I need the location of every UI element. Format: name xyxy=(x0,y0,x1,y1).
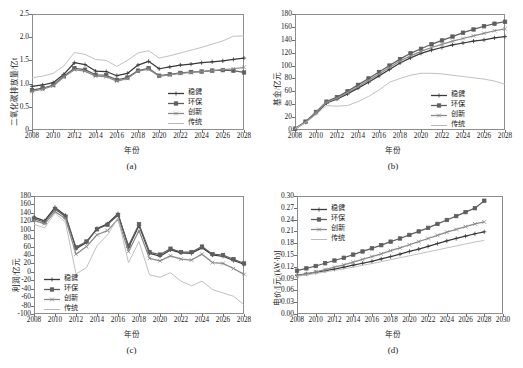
x-tick-mark xyxy=(223,314,224,317)
legend-label: 传统 xyxy=(331,235,345,242)
x-tick-label: 2026 xyxy=(458,317,472,324)
legend-marker-icon xyxy=(168,119,184,128)
y-tick-label: 180 xyxy=(281,10,292,17)
x-tick-label: 2016 xyxy=(111,317,125,324)
legend-label: 环保 xyxy=(64,285,78,292)
y-axis-label-a: 二氧化碳排放量/亿t xyxy=(11,58,19,126)
x-tick-label: 2028 xyxy=(477,317,491,324)
x-tick-mark xyxy=(421,130,422,133)
y-tick-label: 0.24 xyxy=(281,216,294,223)
series-group-b xyxy=(295,14,505,130)
legend-label: 传统 xyxy=(188,119,202,126)
x-tick-mark xyxy=(202,314,203,317)
plot-area-a: 00.51.01.52.02.5 20082010201220142016201… xyxy=(32,14,244,130)
y-tick-label: 160 xyxy=(20,201,31,208)
legend-item-传统: 传统 xyxy=(44,304,78,314)
legend-item-创新: 创新 xyxy=(431,110,465,120)
x-tick-mark xyxy=(53,130,54,133)
legend-item-环保: 环保 xyxy=(44,284,78,294)
legend-label: 稳健 xyxy=(451,91,465,98)
x-tick-label: 2024 xyxy=(194,133,208,140)
x-tick-label: 2012 xyxy=(327,317,341,324)
legend-marker-icon xyxy=(311,215,327,224)
x-tick-mark xyxy=(391,314,392,317)
x-tick-label: 2030 xyxy=(496,317,510,324)
legend-label: 创新 xyxy=(188,109,202,116)
y-tick-label: 40 xyxy=(24,251,31,258)
legend-marker-icon xyxy=(431,111,447,120)
x-tick-label: 2028 xyxy=(237,133,251,140)
x-tick-label: 2008 xyxy=(288,133,302,140)
x-tick-label: 2016 xyxy=(372,133,386,140)
legend-marker-icon xyxy=(168,99,184,108)
x-tick-mark xyxy=(484,130,485,133)
x-axis-label-d: 年份 xyxy=(263,331,523,339)
x-tick-mark xyxy=(139,314,140,317)
x-tick-label: 2024 xyxy=(440,317,454,324)
x-tick-mark xyxy=(358,130,359,133)
x-tick-mark xyxy=(55,314,56,317)
y-tick-label: 1.5 xyxy=(20,57,29,64)
x-tick-mark xyxy=(447,314,448,317)
y-tick-label: 120 xyxy=(20,218,31,225)
x-tick-label: 2020 xyxy=(414,133,428,140)
y-axis-label-c: 利润/亿元 xyxy=(13,258,21,292)
y-tick-label: 80 xyxy=(24,234,31,241)
legend-item-环保: 环保 xyxy=(311,214,345,224)
legend-item-稳健: 稳健 xyxy=(431,90,465,100)
legend-label: 传统 xyxy=(451,121,465,128)
x-tick-label: 2020 xyxy=(402,317,416,324)
x-tick-label: 2018 xyxy=(131,133,145,140)
x-tick-mark xyxy=(159,130,160,133)
y-tick-label: 180 xyxy=(20,192,31,199)
legend-label: 传统 xyxy=(64,305,78,312)
x-axis-label-a: 年份 xyxy=(0,147,263,155)
x-tick-label: 2010 xyxy=(309,133,323,140)
x-tick-mark xyxy=(334,314,335,317)
caption-a: (a) xyxy=(0,162,263,171)
x-tick-mark xyxy=(74,130,75,133)
x-tick-label: 2022 xyxy=(435,133,449,140)
x-tick-label: 2026 xyxy=(216,133,230,140)
x-axis-label-c: 年份 xyxy=(0,331,263,339)
series-环保 xyxy=(32,207,245,265)
x-tick-label: 2028 xyxy=(237,317,251,324)
x-tick-label: 2016 xyxy=(365,317,379,324)
y-tick-label: 0.30 xyxy=(281,192,294,199)
legend-marker-icon xyxy=(44,305,60,314)
y-tick-label: 20 xyxy=(285,113,292,120)
y-tick-label: 20 xyxy=(24,260,31,267)
caption-c: (c) xyxy=(0,346,263,355)
legend-label: 创新 xyxy=(451,111,465,118)
x-tick-mark xyxy=(316,130,317,133)
x-tick-label: 2008 xyxy=(290,317,304,324)
x-tick-mark xyxy=(244,130,245,133)
x-tick-label: 2018 xyxy=(383,317,397,324)
x-tick-mark xyxy=(117,130,118,133)
x-tick-mark xyxy=(223,130,224,133)
x-tick-mark xyxy=(428,314,429,317)
x-tick-label: 2022 xyxy=(421,317,435,324)
x-tick-label: 2022 xyxy=(174,317,188,324)
legend-item-传统: 传统 xyxy=(168,118,202,128)
y-tick-label: 100 xyxy=(20,226,31,233)
four-panel-line-chart-figure: 00.51.01.52.02.5 20082010201220142016201… xyxy=(0,0,523,368)
y-tick-label: 0.21 xyxy=(281,228,294,235)
x-tick-mark xyxy=(160,314,161,317)
y-tick-label: 0.06 xyxy=(281,287,294,294)
legend-marker-icon xyxy=(44,285,60,294)
x-tick-mark xyxy=(400,130,401,133)
legend-marker-icon xyxy=(311,235,327,244)
chart-panel-b: 020406080100120140160180 200820102012201… xyxy=(263,0,523,184)
series-稳健 xyxy=(32,205,246,266)
series-稳健 xyxy=(293,34,507,130)
x-tick-label: 2014 xyxy=(90,317,104,324)
x-tick-label: 2008 xyxy=(27,317,41,324)
legend-item-传统: 传统 xyxy=(311,234,345,244)
x-tick-mark xyxy=(442,130,443,133)
y-tick-label: 60 xyxy=(24,243,31,250)
x-tick-mark xyxy=(180,130,181,133)
y-tick-label: 0.03 xyxy=(281,298,294,305)
x-tick-label: 2014 xyxy=(88,133,102,140)
x-tick-mark xyxy=(118,314,119,317)
